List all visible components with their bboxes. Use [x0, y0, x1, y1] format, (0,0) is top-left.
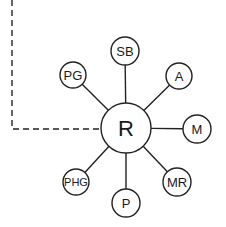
spoke-edge-phg — [85, 146, 109, 172]
hub-spoke-diagram: RSBAMMRPPHGPG — [0, 0, 226, 227]
spoke-edge-a — [144, 85, 170, 110]
node-m: M — [183, 115, 211, 143]
node-phg: PHG — [63, 169, 89, 195]
spoke-edge-mr — [143, 146, 167, 172]
node-p: P — [112, 189, 140, 217]
dashed-connector-line — [12, 0, 101, 129]
spoke-edge-pg — [82, 84, 108, 110]
node-sb-label: SB — [116, 44, 133, 59]
node-mr: MR — [163, 168, 191, 196]
node-pg: PG — [60, 62, 86, 88]
node-mr-label: MR — [167, 175, 187, 190]
node-sb: SB — [111, 37, 139, 65]
diagram-nodes: RSBAMMRPPHGPG — [60, 37, 211, 217]
node-a: A — [166, 63, 192, 89]
node-m-label: M — [192, 122, 203, 137]
node-center-r-label: R — [118, 116, 134, 141]
diagram-canvas: RSBAMMRPPHGPG — [0, 0, 226, 227]
node-a-label: A — [175, 69, 184, 84]
node-phg-label: PHG — [64, 176, 88, 188]
node-pg-label: PG — [64, 68, 83, 83]
node-center-r: R — [101, 103, 151, 153]
node-p-label: P — [122, 196, 131, 211]
